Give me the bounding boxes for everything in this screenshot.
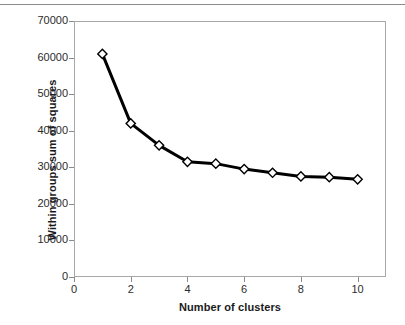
y-axis-tick-label: 50000 xyxy=(8,88,68,99)
x-axis-tick-label: 4 xyxy=(167,283,207,295)
y-axis-tick-label: 70000 xyxy=(8,15,68,26)
x-axis-tick-mark xyxy=(187,277,188,282)
y-axis-tick-label: 40000 xyxy=(8,125,68,136)
y-axis-tick-label: 0 xyxy=(8,271,68,282)
data-point-marker xyxy=(353,175,362,184)
y-axis-tick-mark xyxy=(69,58,74,59)
y-axis-tick-label: 20000 xyxy=(8,198,68,209)
data-point-marker xyxy=(98,49,107,58)
x-axis-tick-mark xyxy=(358,277,359,282)
y-axis-tick-label-group: 010000200003000040000500006000070000 xyxy=(4,0,68,325)
x-axis-tick-mark xyxy=(131,277,132,282)
data-point-marker xyxy=(325,173,334,182)
x-axis-tick-label: 6 xyxy=(224,283,264,295)
data-point-marker xyxy=(268,168,277,177)
data-point-marker-group xyxy=(98,49,362,184)
y-axis-tick-mark xyxy=(69,167,74,168)
data-point-marker xyxy=(211,159,220,168)
y-axis-tick-mark xyxy=(69,21,74,22)
data-point-marker xyxy=(296,172,305,181)
y-axis-tick-mark xyxy=(69,204,74,205)
data-series-line xyxy=(102,54,357,179)
x-axis-tick-label: 2 xyxy=(111,283,151,295)
y-axis-tick-mark xyxy=(69,131,74,132)
x-axis-tick-label: 0 xyxy=(54,283,94,295)
y-axis-tick-label: 10000 xyxy=(8,234,68,245)
y-axis-tick-mark xyxy=(69,277,74,278)
y-axis-tick-label: 30000 xyxy=(8,161,68,172)
figure-canvas: Within groups sum of squares 01000020000… xyxy=(0,0,405,325)
y-axis-tick-label: 60000 xyxy=(8,52,68,63)
y-axis-tick-mark xyxy=(69,94,74,95)
x-axis-tick-mark xyxy=(301,277,302,282)
line-chart-plot xyxy=(74,21,386,277)
data-point-marker xyxy=(240,165,249,174)
x-axis-title: Number of clusters xyxy=(74,301,386,313)
x-axis-tick-label: 10 xyxy=(338,283,378,295)
y-axis-tick-mark xyxy=(69,240,74,241)
x-axis-tick-mark xyxy=(244,277,245,282)
x-axis-tick-label: 8 xyxy=(281,283,321,295)
x-axis-tick-mark xyxy=(74,277,75,282)
